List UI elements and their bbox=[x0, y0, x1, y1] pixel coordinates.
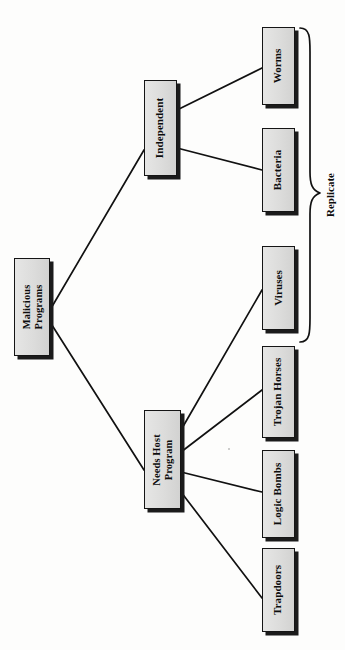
node-bacteria-label: Bacteria bbox=[273, 150, 285, 191]
edge-independent-to-bacteria bbox=[177, 148, 262, 170]
edge-needs-host-to-logic-bombs bbox=[181, 472, 262, 492]
node-independent-label: Independent bbox=[155, 98, 167, 158]
edge-needs-host-to-viruses bbox=[181, 290, 262, 430]
replicate-label: Replicate bbox=[324, 173, 336, 217]
edge-independent-to-worms bbox=[177, 68, 262, 110]
taxonomy-diagram: Malicious Programs Independent Needs Hos… bbox=[0, 0, 345, 650]
node-logic-bombs-label: Logic Bombs bbox=[273, 463, 285, 526]
node-needs-host-program-label: Needs Host Program bbox=[151, 434, 175, 485]
edge-malicious-to-needs-host bbox=[50, 322, 144, 470]
node-needs-host-program[interactable]: Needs Host Program bbox=[144, 410, 181, 509]
edge-malicious-to-independent bbox=[50, 150, 144, 310]
node-viruses-label: Viruses bbox=[273, 270, 285, 306]
replicate-label-wrap: Replicate bbox=[316, 155, 344, 235]
node-trapdoors[interactable]: Trapdoors bbox=[262, 548, 295, 632]
node-worms[interactable]: Worms bbox=[262, 27, 295, 105]
edge-needs-host-to-trapdoors bbox=[181, 492, 262, 598]
node-malicious-programs-label: Malicious Programs bbox=[20, 285, 44, 330]
edge-needs-host-to-trojan-horses bbox=[181, 390, 262, 452]
node-trapdoors-label: Trapdoors bbox=[273, 565, 285, 615]
scan-speck bbox=[228, 448, 230, 450]
node-trojan-horses-label: Trojan Horses bbox=[273, 358, 285, 426]
node-worms-label: Worms bbox=[273, 49, 285, 84]
node-logic-bombs[interactable]: Logic Bombs bbox=[262, 450, 295, 538]
node-trojan-horses[interactable]: Trojan Horses bbox=[262, 346, 295, 438]
node-bacteria[interactable]: Bacteria bbox=[262, 128, 295, 212]
node-independent[interactable]: Independent bbox=[144, 80, 177, 176]
node-malicious-programs[interactable]: Malicious Programs bbox=[14, 258, 50, 356]
node-viruses[interactable]: Viruses bbox=[262, 246, 295, 330]
